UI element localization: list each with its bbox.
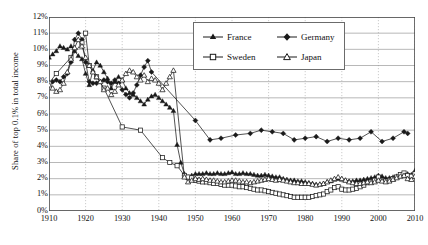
legend-item-japan[interactable]: Japan bbox=[276, 51, 350, 63]
legend-item-france[interactable]: France bbox=[202, 31, 276, 43]
y-tick-label: 10% bbox=[18, 45, 48, 53]
x-tick-label: 2010 bbox=[395, 214, 428, 223]
filled-diamond-icon bbox=[276, 31, 298, 43]
legend-row-1: France Germany bbox=[202, 27, 350, 47]
y-tick-label: 1% bbox=[18, 190, 48, 198]
x-tick-label: 1950 bbox=[175, 214, 215, 223]
x-tick-label: 1980 bbox=[285, 214, 325, 223]
legend-item-sweden[interactable]: Sweden bbox=[202, 51, 276, 63]
chart-legend: France Germany Sweden Japan bbox=[193, 22, 345, 70]
y-tick-label: 4% bbox=[18, 142, 48, 150]
y-tick-label: 5% bbox=[18, 126, 48, 134]
y-tick-label: 12% bbox=[18, 13, 48, 21]
legend-row-2: Sweden Japan bbox=[202, 47, 350, 67]
y-tick-label: 6% bbox=[18, 110, 48, 118]
x-tick-label: 1910 bbox=[29, 214, 69, 223]
legend-label-france: France bbox=[227, 32, 252, 42]
y-tick-label: 8% bbox=[18, 77, 48, 85]
y-tick-label: 9% bbox=[18, 61, 48, 69]
x-tick-label: 1990 bbox=[322, 214, 362, 223]
open-square-icon bbox=[202, 51, 224, 63]
legend-label-sweden: Sweden bbox=[227, 52, 256, 62]
x-tick-label: 2000 bbox=[358, 214, 398, 223]
legend-label-japan: Japan bbox=[301, 52, 322, 62]
x-tick-label: 1930 bbox=[102, 214, 142, 223]
legend-label-germany: Germany bbox=[301, 32, 335, 42]
x-tick-label: 1920 bbox=[66, 214, 106, 223]
x-tick-label: 1970 bbox=[249, 214, 289, 223]
y-tick-label: 2% bbox=[18, 174, 48, 182]
filled-triangle-icon bbox=[202, 31, 224, 43]
x-axis-tick-labels: 1910192019301940195019601970198019902000… bbox=[0, 214, 428, 234]
x-tick-label: 1960 bbox=[212, 214, 252, 223]
chart-figure: Share of top 0.1% in total income 12%11%… bbox=[0, 0, 428, 245]
x-tick-label: 1940 bbox=[139, 214, 179, 223]
open-triangle-icon bbox=[276, 51, 298, 63]
y-axis-tick-labels: 12%11%10%9%8%7%6%5%4%3%2%1%0% bbox=[14, 0, 48, 245]
y-tick-label: 11% bbox=[18, 29, 48, 37]
legend-item-germany[interactable]: Germany bbox=[276, 31, 350, 43]
y-tick-label: 7% bbox=[18, 93, 48, 101]
y-tick-label: 3% bbox=[18, 158, 48, 166]
